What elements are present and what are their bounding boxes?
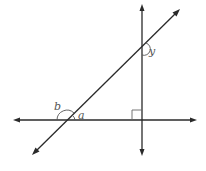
angle-a-arc [72,115,75,120]
transversal-line [32,9,180,155]
arrow-right-icon [190,118,197,123]
arrow-left-icon [13,118,20,123]
geometry-diagram: b a y [0,0,206,171]
label-y: y [148,45,156,58]
label-a: a [78,109,85,122]
arrow-down-icon [140,149,145,156]
horizontal-line [13,118,197,123]
label-b: b [54,100,61,113]
vertical-line [140,4,145,156]
arrow-up-icon [140,4,145,11]
right-angle-marker [132,110,142,120]
